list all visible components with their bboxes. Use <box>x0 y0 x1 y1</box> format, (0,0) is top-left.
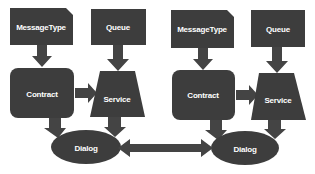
right-arrow-messagetype-contract <box>193 48 213 70</box>
right-messagetype-label: MessageType <box>177 25 227 34</box>
left-arrow-messagetype-contract <box>32 45 52 67</box>
left-dialog-label: Dialog <box>74 144 97 153</box>
right-queue-label: Queue <box>266 25 290 34</box>
left-messagetype-label: MessageType <box>16 23 66 32</box>
left-contract-label: Contract <box>26 90 57 99</box>
double-arrow-dialog-dialog <box>118 139 213 157</box>
left-arrow-queue-service <box>107 45 129 71</box>
left-service-label: Service <box>103 95 130 104</box>
right-contract-label: Contract <box>187 91 218 100</box>
right-dialog-label: Dialog <box>233 145 256 154</box>
right-arrow-queue-service <box>266 47 288 73</box>
right-service-label: Service <box>264 96 291 105</box>
left-queue-label: Queue <box>106 23 130 32</box>
